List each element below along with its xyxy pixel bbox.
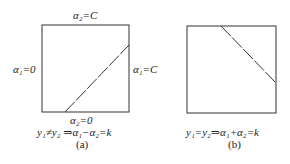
- panel-a-box: [42, 25, 129, 112]
- panel-a-constraint-line: [65, 45, 129, 112]
- panel-a-right-label: α₁=C: [133, 64, 157, 75]
- panel-a-top-label: α₂=C: [73, 10, 97, 21]
- panel-b-caption: (b): [228, 139, 241, 150]
- diagram-canvas: [0, 0, 290, 164]
- panel-a-caption: (a): [76, 139, 88, 150]
- panel-a-left-label: α₁=0: [13, 64, 36, 75]
- panel-a-equation: y₁≠y₂ ⇒α₁−α₂=k: [37, 127, 111, 138]
- panel-b-constraint-line: [221, 26, 276, 83]
- panel-b-equation: y₁=y₂⇒α₁+α₂=k: [186, 127, 259, 138]
- panel-a-bottom-label: α₂=0: [70, 115, 93, 126]
